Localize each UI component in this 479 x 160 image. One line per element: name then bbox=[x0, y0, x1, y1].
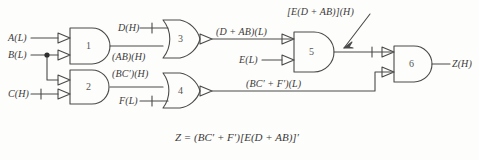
wire-gate4-out-to-gate6 bbox=[212, 72, 392, 91]
gate-1-input-bubble-a bbox=[58, 33, 70, 43]
wire-b-branch-to-gate2 bbox=[47, 55, 58, 80]
wire-label-bc-prime: (BC′)(H) bbox=[112, 69, 148, 79]
gate-number-4: 4 bbox=[178, 86, 183, 96]
wire-label-d-plus-ab: (D + AB)(L) bbox=[216, 27, 267, 37]
gate-5-body bbox=[294, 32, 334, 72]
gate-3-output-bubble bbox=[200, 34, 212, 44]
input-label-b: B(L) bbox=[8, 50, 27, 60]
output-equation: Z = (BC′ + F′)[E(D + AB)]′ bbox=[175, 132, 299, 143]
circuit-diagram: A(L) B(L) C(H) D(H) F(L) E(L) Z(H) 1 2 3… bbox=[0, 0, 479, 160]
gate-5-input-bubble-e bbox=[282, 55, 294, 65]
gate-4-output-bubble bbox=[200, 86, 212, 96]
input-label-f: F(L) bbox=[119, 96, 138, 106]
gate-1-input-bubble-b bbox=[58, 50, 70, 60]
output-label-z: Z(H) bbox=[452, 59, 472, 69]
gate-number-1: 1 bbox=[86, 41, 91, 51]
gate-2-input-bubble-c bbox=[58, 89, 70, 99]
junction-dot-b bbox=[44, 52, 49, 57]
input-label-d: D(H) bbox=[118, 23, 140, 33]
gate-number-2: 2 bbox=[86, 82, 91, 92]
gate-number-3: 3 bbox=[178, 34, 183, 44]
annotation-label: [E(D + AB)](H) bbox=[287, 7, 354, 17]
gate-2-input-bubble-b bbox=[58, 75, 70, 85]
input-label-c: C(H) bbox=[8, 89, 29, 99]
wire-label-ab: (AB)(H) bbox=[112, 52, 145, 62]
input-label-e: E(L) bbox=[239, 55, 258, 65]
annotation-leader-line bbox=[344, 14, 370, 48]
gate-number-5: 5 bbox=[309, 47, 314, 57]
gate-number-6: 6 bbox=[409, 59, 414, 69]
wire-label-bc-prime-plus-f-prime: (BC′ + F′)(L) bbox=[246, 79, 301, 89]
input-label-a: A(L) bbox=[8, 33, 27, 43]
